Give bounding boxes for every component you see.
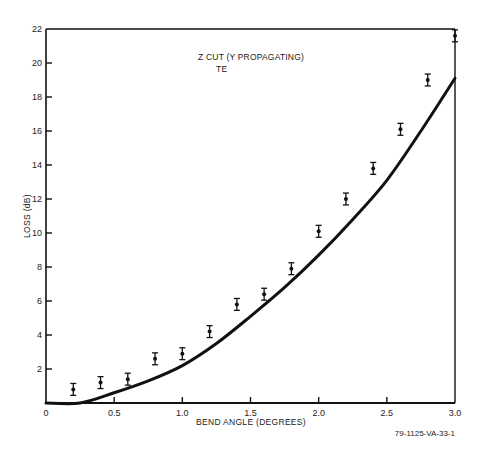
data-point — [316, 225, 322, 237]
data-point — [98, 377, 104, 389]
data-point — [288, 263, 294, 275]
chart: 246810121416182022 00.51.01.52.02.53.0 Z… — [0, 0, 479, 449]
annotation-line-1: Z CUT (Y PROPAGATING) — [198, 52, 304, 62]
plot-frame — [46, 29, 455, 403]
x-tick-label: 3.0 — [449, 408, 462, 418]
y-tick-label: 8 — [37, 262, 42, 272]
y-tick-label: 12 — [32, 194, 42, 204]
y-tick-label: 6 — [37, 296, 42, 306]
data-point — [425, 74, 431, 86]
data-point — [370, 162, 376, 174]
x-tick-label: 2.0 — [312, 408, 325, 418]
y-tick-label: 10 — [32, 228, 42, 238]
theory-curve — [46, 78, 455, 403]
x-axis-title: BEND ANGLE (DEGREES) — [196, 417, 306, 427]
x-tick-label: 2.5 — [381, 408, 394, 418]
data-point — [343, 193, 349, 205]
data-point — [397, 123, 403, 135]
y-tick-label: 22 — [32, 24, 42, 34]
annotation-line-2: TE — [216, 64, 227, 74]
data-point — [261, 288, 267, 300]
y-tick-label: 14 — [32, 160, 42, 170]
figure-id: 79-1125-VA-33-1 — [395, 429, 456, 438]
data-point — [70, 383, 76, 395]
y-tick-label: 4 — [37, 330, 42, 340]
x-tick-label: 0 — [43, 408, 48, 418]
y-axis-ticks: 246810121416182022 — [32, 24, 52, 374]
y-axis-title: LOSS (dB) — [22, 194, 32, 238]
measured-data-points — [70, 30, 458, 396]
data-point — [152, 353, 158, 365]
data-point — [179, 348, 185, 360]
data-point — [452, 30, 458, 42]
data-point — [234, 298, 240, 310]
x-axis-ticks: 00.51.01.52.02.53.0 — [43, 397, 461, 418]
x-tick-label: 0.5 — [108, 408, 121, 418]
y-tick-label: 16 — [32, 126, 42, 136]
y-tick-label: 2 — [37, 364, 42, 374]
y-tick-label: 20 — [32, 58, 42, 68]
x-tick-label: 1.0 — [176, 408, 189, 418]
data-point — [125, 373, 131, 385]
data-point — [207, 326, 213, 338]
y-tick-label: 18 — [32, 92, 42, 102]
